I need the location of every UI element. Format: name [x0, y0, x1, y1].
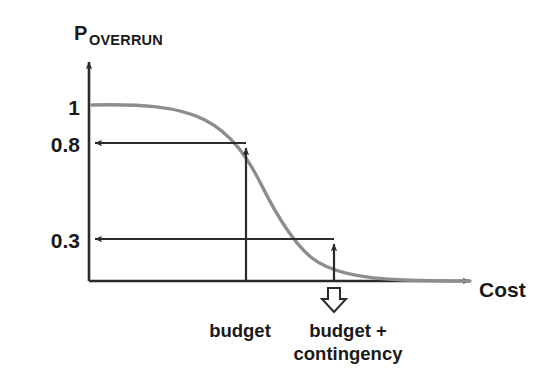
chart-background	[0, 0, 550, 385]
budget-label: budget	[209, 320, 271, 341]
y-axis-title-main: P	[74, 22, 87, 44]
y-tick-label-1: 1	[68, 96, 80, 119]
y-tick-label-0-3: 0.3	[51, 229, 80, 252]
chart-figure: P OVERRUN budget budget + contingency	[0, 0, 550, 385]
contingency-label-line2: contingency	[294, 343, 404, 364]
y-axis-title-subscript: OVERRUN	[89, 32, 163, 48]
x-axis-label: Cost	[479, 278, 526, 301]
contingency-label-line1: budget +	[309, 320, 387, 341]
y-tick-label-0-8: 0.8	[51, 133, 81, 156]
povverrun-cost-chart: P OVERRUN budget budget + contingency	[0, 0, 550, 385]
